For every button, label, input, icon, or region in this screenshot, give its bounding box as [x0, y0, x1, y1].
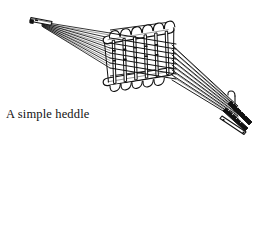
figure-caption: A simple heddle loom. [6, 92, 116, 137]
caption-line-1: A simple heddle [6, 107, 90, 121]
clamp-rivet [242, 131, 244, 133]
clamp-rivet [222, 119, 224, 121]
